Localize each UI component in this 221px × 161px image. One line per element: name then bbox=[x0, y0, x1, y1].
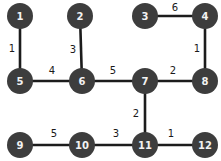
graph-node-4[interactable]: 4 bbox=[192, 3, 218, 29]
graph-node-6[interactable]: 6 bbox=[69, 68, 95, 94]
edge-weight-5-6: 4 bbox=[49, 65, 55, 76]
graph-node-10[interactable]: 10 bbox=[69, 132, 95, 158]
graph-node-7[interactable]: 7 bbox=[132, 68, 158, 94]
graph-node-12[interactable]: 12 bbox=[192, 132, 218, 158]
node-label-7: 7 bbox=[142, 76, 149, 87]
node-label-4: 4 bbox=[202, 11, 209, 22]
graph-canvas: 123456789101112 13614522531 bbox=[0, 0, 221, 161]
edge-weight-3-4: 6 bbox=[172, 2, 178, 13]
edge-weight-4-8: 1 bbox=[194, 43, 200, 54]
weighted-graph-diagram: 123456789101112 13614522531 bbox=[0, 0, 221, 161]
node-label-2: 2 bbox=[77, 11, 84, 22]
node-label-12: 12 bbox=[198, 140, 212, 151]
edge-weight-11-12: 1 bbox=[168, 128, 174, 139]
node-label-10: 10 bbox=[75, 140, 89, 151]
edge-weight-2-6: 3 bbox=[70, 44, 76, 55]
node-label-1: 1 bbox=[17, 11, 24, 22]
graph-node-1[interactable]: 1 bbox=[7, 3, 33, 29]
edge-weight-9-10: 5 bbox=[51, 128, 57, 139]
node-label-8: 8 bbox=[202, 76, 209, 87]
graph-node-5[interactable]: 5 bbox=[7, 68, 33, 94]
node-label-6: 6 bbox=[79, 76, 86, 87]
graph-node-11[interactable]: 11 bbox=[132, 132, 158, 158]
node-label-5: 5 bbox=[17, 76, 24, 87]
graph-node-2[interactable]: 2 bbox=[67, 3, 93, 29]
graph-node-3[interactable]: 3 bbox=[132, 3, 158, 29]
node-label-3: 3 bbox=[142, 11, 149, 22]
edge-weight-10-11: 3 bbox=[113, 128, 119, 139]
node-label-11: 11 bbox=[138, 140, 152, 151]
edge-weights-layer: 13614522531 bbox=[9, 2, 200, 139]
edge-weight-6-7: 5 bbox=[110, 65, 116, 76]
edge-weight-7-11: 2 bbox=[133, 108, 139, 119]
edge-weight-1-5: 1 bbox=[9, 43, 15, 54]
graph-node-8[interactable]: 8 bbox=[192, 68, 218, 94]
edges-layer bbox=[20, 16, 205, 145]
graph-node-9[interactable]: 9 bbox=[7, 132, 33, 158]
node-label-9: 9 bbox=[17, 140, 24, 151]
edge-weight-7-8: 2 bbox=[170, 65, 176, 76]
